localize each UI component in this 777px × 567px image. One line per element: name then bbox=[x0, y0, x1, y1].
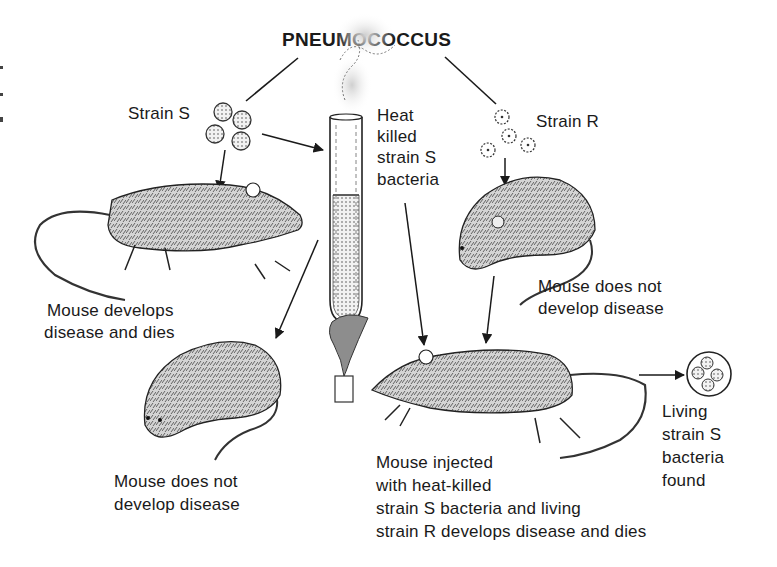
smoke-icon bbox=[332, 13, 395, 115]
arrow-heat-killed-to-mouse bbox=[405, 203, 424, 345]
arrow-tube-to-mouse bbox=[276, 240, 318, 338]
burner-icon bbox=[335, 376, 353, 402]
strain-s-bacteria-icon bbox=[206, 103, 251, 150]
arrows bbox=[219, 134, 684, 375]
label-strain-r: Strain R bbox=[536, 112, 599, 132]
mouse-survives-heat-killed-icon bbox=[144, 342, 280, 460]
flame-icon bbox=[329, 315, 368, 376]
test-tube-icon bbox=[330, 114, 362, 322]
living-strain-s-culture-icon bbox=[687, 352, 731, 396]
arrow-strain-r-to-injected-mouse bbox=[486, 276, 494, 343]
mouse-dies-icon bbox=[35, 183, 302, 300]
arrow-strain-s-to-tube bbox=[262, 134, 323, 150]
mouse-injected-dies-icon bbox=[372, 350, 646, 458]
label-strain-s: Strain S bbox=[128, 104, 190, 124]
